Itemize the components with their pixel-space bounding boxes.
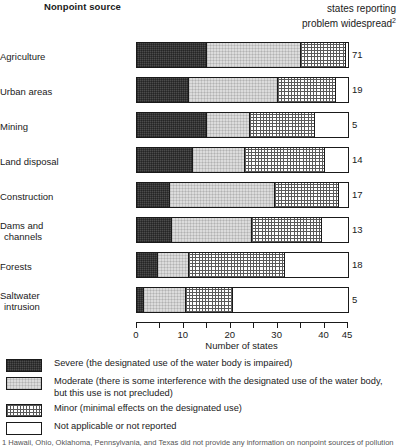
chart-row: Urban areas19 xyxy=(0,77,402,103)
bar-segment-moderate[interactable] xyxy=(172,218,252,242)
category-label-line1: Dams and xyxy=(0,220,122,231)
x-axis-tick xyxy=(136,322,137,328)
stacked-bar[interactable] xyxy=(136,112,349,138)
states-reporting-value: 13 xyxy=(352,224,394,235)
x-axis-tick-label: 30 xyxy=(262,329,292,340)
category-label: Forests xyxy=(0,261,122,272)
bar-segment-severe[interactable] xyxy=(137,148,193,172)
bar-segment-moderate[interactable] xyxy=(189,78,278,102)
category-label-line1: Mining xyxy=(0,121,122,132)
bar-segment-na[interactable] xyxy=(346,43,348,67)
header-states-reporting: states reporting xyxy=(302,3,396,15)
bar-segment-minor[interactable] xyxy=(301,43,346,67)
bar-segment-na[interactable] xyxy=(322,218,348,242)
bar-segment-severe[interactable] xyxy=(137,288,144,312)
legend-swatch-moderate xyxy=(6,377,42,390)
x-axis-tick xyxy=(183,322,184,328)
category-label-line1: Urban areas xyxy=(0,86,122,97)
x-axis-tick-label: 10 xyxy=(168,329,198,340)
chart-row: Forests18 xyxy=(0,252,402,278)
bar-segment-moderate[interactable] xyxy=(207,113,249,137)
chart-row: Saltwaterintrusion5 xyxy=(0,287,402,313)
stacked-bar[interactable] xyxy=(136,77,349,103)
category-label: Mining xyxy=(0,121,122,132)
chart-row: Mining5 xyxy=(0,112,402,138)
bar-segment-minor[interactable] xyxy=(186,288,233,312)
stacked-bar[interactable] xyxy=(136,252,349,278)
legend-swatch-minor xyxy=(6,404,42,417)
bar-segment-severe[interactable] xyxy=(137,113,207,137)
bar-segment-minor[interactable] xyxy=(278,78,337,102)
bar-segment-minor[interactable] xyxy=(252,218,322,242)
bar-segment-minor[interactable] xyxy=(245,148,325,172)
states-reporting-value: 18 xyxy=(352,259,394,270)
bar-segment-severe[interactable] xyxy=(137,253,158,277)
bar-segment-na[interactable] xyxy=(285,253,348,277)
legend-item[interactable]: Minor (minimal effects on the designated… xyxy=(0,403,402,417)
bar-segment-moderate[interactable] xyxy=(207,43,301,67)
legend-swatch-na xyxy=(6,422,42,435)
bar-segment-na[interactable] xyxy=(233,288,348,312)
category-label: Agriculture xyxy=(0,51,122,62)
x-axis-tick xyxy=(159,322,160,328)
bar-segment-minor[interactable] xyxy=(275,183,338,207)
bar-segment-moderate[interactable] xyxy=(158,253,188,277)
x-axis-tick xyxy=(253,322,254,328)
states-reporting-value: 17 xyxy=(352,189,394,200)
stacked-bar[interactable] xyxy=(136,182,349,208)
chart-row: Dams andchannels13 xyxy=(0,217,402,243)
category-label-line1: Saltwater xyxy=(0,290,122,301)
legend-item[interactable]: Not applicable or not reported xyxy=(0,421,402,435)
bar-segment-minor[interactable] xyxy=(189,253,285,277)
chart-footnote: 1 Hawaii, Ohio, Oklahoma, Pennsylvania, … xyxy=(2,438,402,447)
legend-item[interactable]: Severe (the designated use of the water … xyxy=(0,358,402,372)
header-nonpoint: Nonpoint xyxy=(44,1,86,12)
legend-swatch-severe xyxy=(6,359,42,372)
bar-segment-moderate[interactable] xyxy=(170,183,276,207)
legend-item[interactable]: Moderate (there is some interference wit… xyxy=(0,376,402,399)
x-axis: Number of states 01020304045 xyxy=(0,322,402,352)
footnote-marker: 2 xyxy=(392,17,396,24)
category-label-line1: Construction xyxy=(0,191,122,202)
bar-segment-moderate[interactable] xyxy=(144,288,186,312)
bar-segment-severe[interactable] xyxy=(137,43,207,67)
x-axis-title: Number of states xyxy=(136,340,347,351)
states-reporting-value: 71 xyxy=(352,49,394,60)
header-problem-widespread: problem widespread2 xyxy=(302,15,396,30)
states-reporting-value: 19 xyxy=(352,84,394,95)
header-source: source xyxy=(89,1,121,12)
bar-segment-na[interactable] xyxy=(325,148,348,172)
states-reporting-value: 5 xyxy=(352,119,394,130)
category-label: Saltwaterintrusion xyxy=(0,290,122,312)
states-reporting-value: 14 xyxy=(352,154,394,165)
bar-segment-severe[interactable] xyxy=(137,78,189,102)
x-axis-tick xyxy=(300,322,301,328)
x-axis-tick-label: 0 xyxy=(121,329,151,340)
x-axis-tick-label: 20 xyxy=(215,329,245,340)
x-axis-tick xyxy=(206,322,207,328)
category-label: Land disposal xyxy=(0,156,122,167)
stacked-bar[interactable] xyxy=(136,217,349,243)
category-label: Urban areas xyxy=(0,86,122,97)
x-axis-tick xyxy=(324,322,325,328)
bar-chart-plot-area: Agriculture71Urban areas19Mining5Land di… xyxy=(0,40,402,325)
chart-row: Land disposal14 xyxy=(0,147,402,173)
stacked-bar[interactable] xyxy=(136,42,349,68)
x-axis-tick-label: 45 xyxy=(332,329,362,340)
bar-segment-minor[interactable] xyxy=(250,113,316,137)
category-label-line1: Agriculture xyxy=(0,51,122,62)
bar-segment-severe[interactable] xyxy=(137,183,170,207)
bar-segment-na[interactable] xyxy=(339,183,348,207)
bar-segment-moderate[interactable] xyxy=(193,148,245,172)
bar-segment-na[interactable] xyxy=(336,78,348,102)
column-header-nonpoint-source: Nonpoint source xyxy=(44,1,121,13)
chart-header: Nonpoint source Number of states reporti… xyxy=(0,0,402,36)
category-label-line1: Land disposal xyxy=(0,156,122,167)
bar-segment-na[interactable] xyxy=(315,113,348,137)
category-label: Construction xyxy=(0,191,122,202)
x-axis-tick xyxy=(347,322,348,328)
stacked-bar[interactable] xyxy=(136,287,349,313)
bar-segment-severe[interactable] xyxy=(137,218,172,242)
legend-label: Severe (the designated use of the water … xyxy=(54,358,402,370)
stacked-bar[interactable] xyxy=(136,147,349,173)
